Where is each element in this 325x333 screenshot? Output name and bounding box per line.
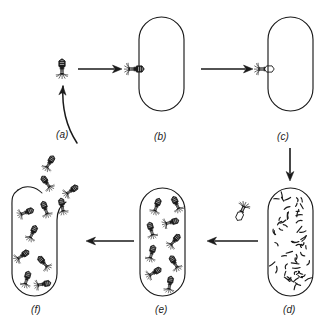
dna-fragment xyxy=(293,268,301,269)
progeny-phage-e-5 xyxy=(145,244,159,263)
label-c: (c) xyxy=(277,131,289,142)
released-phage-1 xyxy=(38,173,56,193)
bacterium-c xyxy=(268,17,313,111)
progeny-phage-e-4 xyxy=(165,231,184,250)
phage-tail-fibre-4 xyxy=(162,224,166,225)
phage-tail-fibre-4 xyxy=(168,289,169,293)
dna-fragment xyxy=(279,217,280,220)
label-a: (a) xyxy=(56,129,69,140)
progeny-phage-e-6 xyxy=(166,253,183,273)
dna-fragment xyxy=(305,278,312,281)
dna-fragment xyxy=(297,209,299,216)
attached-phage-b xyxy=(124,63,144,75)
arrow-a-to-b xyxy=(78,65,122,73)
dna-fragment xyxy=(296,254,297,259)
phage-tail-fibre-4 xyxy=(24,284,25,288)
dna-fragment xyxy=(285,197,291,200)
phage-lifecycle-diagram xyxy=(0,0,325,333)
progeny-phage-f-4 xyxy=(35,253,54,272)
phage-head xyxy=(167,276,174,285)
free-phage-a xyxy=(56,59,68,79)
bacterium-c-wall xyxy=(268,17,313,111)
bacterium-e xyxy=(140,188,185,296)
label-e: (e) xyxy=(155,304,168,315)
dna-fragment xyxy=(307,261,310,266)
dna-fragment xyxy=(301,198,302,202)
released-phage-2 xyxy=(61,182,81,200)
label-f: (f) xyxy=(31,304,41,315)
released-phage-0 xyxy=(41,153,58,173)
arrow-c-to-d xyxy=(286,148,294,181)
progeny-phage-f-1 xyxy=(38,200,53,219)
label-b: (b) xyxy=(154,131,167,142)
dna-fragment xyxy=(284,207,290,210)
arrow-e-to-f xyxy=(86,237,134,245)
bacterium-f-wall-lysed xyxy=(12,190,66,296)
progeny-phage-e-7 xyxy=(144,264,164,281)
dna-fragment xyxy=(297,226,302,232)
phage-tail-fibre-4 xyxy=(34,285,38,286)
progeny-phage-e-3 xyxy=(144,221,158,240)
bacterium-b-wall xyxy=(139,17,184,111)
progeny-phage-e-0 xyxy=(149,197,164,216)
arrow-d-to-e xyxy=(207,237,258,245)
label-d: (d) xyxy=(283,304,296,315)
dna-fragment xyxy=(291,263,299,264)
phage-tail-fibre-4 xyxy=(154,211,155,215)
empty-capsid-c xyxy=(254,63,274,75)
phage-tail-fibre-4 xyxy=(63,211,64,215)
dna-fragment xyxy=(276,266,277,273)
dna-fragment xyxy=(283,225,287,227)
dna-fragment xyxy=(296,220,302,222)
dna-fragment xyxy=(301,275,305,277)
dna-fragment xyxy=(285,271,286,275)
dna-fragment xyxy=(294,272,296,275)
progeny-phage-f-2 xyxy=(24,224,40,244)
phage-head xyxy=(264,66,274,72)
phage-head xyxy=(58,198,65,207)
dna-fragment xyxy=(298,271,303,274)
progeny-phage-f-0 xyxy=(16,205,35,220)
dna-fragment xyxy=(300,204,303,209)
dna-fragment xyxy=(293,278,298,282)
progeny-phage-f-6 xyxy=(33,278,52,291)
dna-fragment xyxy=(296,203,298,206)
bacterium-f-rupture-lip xyxy=(18,187,42,193)
dna-fragment xyxy=(301,252,305,256)
progeny-phage-f-3 xyxy=(12,247,32,265)
bacterium-b xyxy=(139,17,184,111)
phage-tail-fibre-4 xyxy=(153,235,154,239)
phage-tail-fibre-4 xyxy=(149,258,150,262)
free-capsid-d xyxy=(232,200,251,223)
progeny-phage-e-2 xyxy=(161,215,180,229)
progeny-phage-f-5 xyxy=(20,270,34,289)
dna-fragment xyxy=(282,256,287,257)
bacterium-e-wall xyxy=(140,188,185,296)
figure-canvas: (a)(b)(c)(d)(e)(f) xyxy=(0,0,325,333)
dna-fragment xyxy=(297,198,299,202)
dna-fragment xyxy=(285,264,287,269)
progeny-phage-e-8 xyxy=(163,275,176,294)
bacterium-d-dna-fragments xyxy=(270,192,312,290)
phage-head xyxy=(42,280,51,287)
arrow-b-to-c xyxy=(201,65,253,73)
dna-fragment xyxy=(275,243,278,246)
dna-fragment xyxy=(286,251,292,253)
dna-fragment xyxy=(300,231,306,232)
phage-head xyxy=(134,66,144,72)
dna-fragment xyxy=(279,228,282,230)
bacterium-f xyxy=(12,187,66,296)
progeny-phage-e-1 xyxy=(168,195,184,215)
phage-head xyxy=(59,59,65,69)
dna-fragment xyxy=(270,262,275,266)
